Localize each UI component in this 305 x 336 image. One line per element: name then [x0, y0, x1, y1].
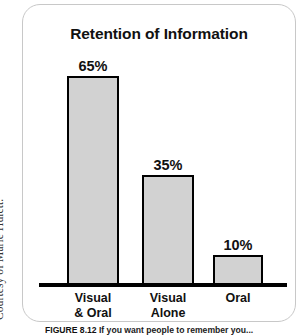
bar-label-oral: Oral: [225, 291, 250, 306]
bar-value-oral: 10%: [223, 237, 252, 253]
figure-caption-text: If you want people to remember you...: [99, 325, 253, 335]
photo-credit-text: Courtesy of Marie Hulett.: [0, 199, 5, 320]
bar-label-line-1: Oral: [225, 291, 250, 306]
bar-label-line-2: & Oral: [74, 306, 112, 321]
bar-label-line-2: Alone: [150, 306, 187, 321]
bar-label-visual-and-oral: Visual & Oral: [74, 291, 112, 321]
photo-credit: Courtesy of Marie Hulett.: [2, 120, 20, 320]
figure-caption-number: FIGURE 8.12: [45, 325, 97, 335]
bar-group-oral: 10% Oral: [213, 255, 263, 285]
bar-value-visual-alone: 35%: [153, 157, 182, 173]
x-axis-baseline: [39, 283, 287, 288]
figure-caption: FIGURE 8.12 If you want people to rememb…: [45, 325, 303, 335]
bar-label-visual-alone: Visual Alone: [150, 291, 187, 321]
figure-frame: Retention of Information 65% Visual & Or…: [22, 4, 296, 322]
bar-chart-plot-area: 65% Visual & Oral 35% Visual Alone 10% O…: [23, 5, 296, 322]
bar-rect-visual-alone: [142, 175, 194, 285]
bar-group-visual-and-oral: 65% Visual & Oral: [67, 76, 119, 285]
bar-group-visual-alone: 35% Visual Alone: [142, 175, 194, 285]
bar-value-visual-and-oral: 65%: [78, 58, 107, 74]
bar-label-line-1: Visual: [74, 291, 112, 306]
bar-rect-visual-and-oral: [67, 76, 119, 285]
bar-label-line-1: Visual: [150, 291, 187, 306]
bar-rect-oral: [213, 255, 263, 285]
